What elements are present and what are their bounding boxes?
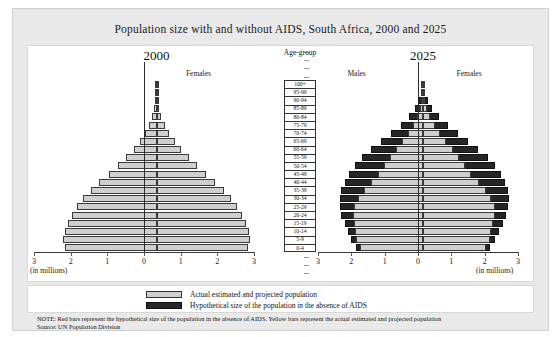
x-axis-tick-label: 1 xyxy=(174,257,188,266)
x-axis-tick xyxy=(451,252,452,256)
year-label-2025: 2025 xyxy=(318,48,528,64)
pyramid-row xyxy=(318,129,528,137)
females-half xyxy=(157,244,267,252)
x-axis-tick xyxy=(518,252,519,256)
males-half xyxy=(47,137,157,145)
bar-actual xyxy=(145,130,156,137)
pyramid-row xyxy=(318,203,528,211)
pyramid-row xyxy=(318,219,528,227)
males-half xyxy=(323,178,423,186)
x-axis-tick-label: 2 xyxy=(64,257,78,266)
females-half xyxy=(423,219,523,227)
pyramid-row xyxy=(34,236,279,244)
males-half xyxy=(323,105,423,113)
females-half xyxy=(423,80,523,88)
age-group-list: 100+95-9990-9485-8980-8475-7970-7465-696… xyxy=(284,80,316,252)
bar-actual xyxy=(423,113,430,120)
females-half xyxy=(157,195,267,203)
females-half xyxy=(157,170,267,178)
age-group-cell: 15-19 xyxy=(285,220,315,228)
bar-actual xyxy=(423,162,465,169)
females-half xyxy=(157,113,267,121)
x-axis-tick-label: 3 xyxy=(27,257,41,266)
age-group-cell: 60-64 xyxy=(285,147,315,155)
females-half xyxy=(423,129,523,137)
males-half xyxy=(323,203,423,211)
females-half xyxy=(423,146,523,154)
males-half xyxy=(47,170,157,178)
x-axis-tick xyxy=(485,252,486,256)
females-half xyxy=(423,244,523,252)
bar-actual xyxy=(423,203,495,210)
bar-actual xyxy=(354,203,423,210)
bar-actual xyxy=(423,220,493,227)
year-label-2000: 2000 xyxy=(34,48,279,64)
legend: Actual estimated and projected populatio… xyxy=(27,285,534,313)
females-half xyxy=(423,203,523,211)
legend-item-hypothetical: Hypothetical size of the population in t… xyxy=(146,301,367,310)
pyramid-row xyxy=(318,80,528,88)
bar-actual xyxy=(157,171,207,178)
bar-actual xyxy=(157,236,251,243)
bar-actual xyxy=(157,244,249,251)
females-half xyxy=(157,88,267,96)
males-half xyxy=(47,219,157,227)
bar-actual xyxy=(423,154,459,161)
age-group-cell: 80-84 xyxy=(285,114,315,122)
x-axis-units: (in millions) xyxy=(30,266,67,275)
figure-footnotes: NOTE: Red bars represent the hypothetica… xyxy=(37,315,542,332)
males-half xyxy=(47,121,157,129)
females-half xyxy=(157,186,267,194)
bar-actual xyxy=(157,187,225,194)
males-half xyxy=(323,211,423,219)
males-half xyxy=(47,96,157,104)
bar-actual xyxy=(157,203,238,210)
age-group-cell: 55-59 xyxy=(285,155,315,163)
bar-actual xyxy=(157,138,175,145)
males-half xyxy=(323,195,423,203)
pyramid-row xyxy=(34,195,279,203)
center-axis-line xyxy=(418,62,419,252)
age-group-cell: 20-24 xyxy=(285,212,315,220)
pyramid-row xyxy=(34,146,279,154)
bar-actual xyxy=(99,179,156,186)
pyramid-row xyxy=(34,178,279,186)
females-half xyxy=(423,186,523,194)
x-axis-tick xyxy=(34,252,35,256)
bar-actual xyxy=(91,187,157,194)
bar-actual xyxy=(423,138,446,145)
males-half xyxy=(47,146,157,154)
males-half xyxy=(323,162,423,170)
pyramid-row xyxy=(318,178,528,186)
males-half xyxy=(47,154,157,162)
bar-actual xyxy=(408,130,423,137)
chart-board: 2000 Females 3210123(in millions) Age-gr… xyxy=(27,45,534,282)
legend-swatch-actual xyxy=(146,291,182,298)
males-half xyxy=(47,211,157,219)
males-half xyxy=(323,129,423,137)
males-half xyxy=(323,154,423,162)
males-half xyxy=(47,227,157,235)
females-half xyxy=(157,227,267,235)
figure-panel: Population size with and without AIDS, S… xyxy=(12,8,549,331)
females-half xyxy=(423,137,523,145)
bar-actual xyxy=(423,89,425,96)
females-half xyxy=(423,113,523,121)
x-axis-tick xyxy=(418,252,419,256)
pyramid-row xyxy=(318,154,528,162)
pyramid-row xyxy=(34,219,279,227)
bar-actual xyxy=(423,122,435,129)
bar-actual xyxy=(65,228,157,235)
females-half xyxy=(423,154,523,162)
bar-actual xyxy=(134,146,157,153)
pyramid-row xyxy=(318,244,528,252)
females-half xyxy=(423,227,523,235)
pyramid-row xyxy=(34,211,279,219)
x-axis-tick xyxy=(318,252,319,256)
pyramid-row xyxy=(318,211,528,219)
bar-actual xyxy=(355,228,423,235)
bar-actual xyxy=(402,138,423,145)
x-axis-tick-label: 3 xyxy=(247,257,261,266)
females-half xyxy=(423,121,523,129)
males-half xyxy=(47,178,157,186)
